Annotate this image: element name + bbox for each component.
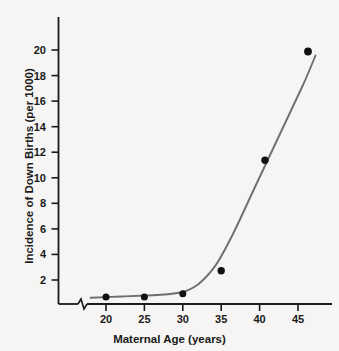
x-axis-break-icon [78,299,87,309]
x-tick-label-45: 45 [292,313,304,325]
data-point [218,267,225,274]
x-axis-ticks [106,304,298,311]
x-tick-label-40: 40 [253,313,265,325]
data-point [141,294,148,301]
y-axis-ticks [52,50,59,280]
data-point [103,294,110,301]
chart-figure: 20 18 16 14 12 10 8 6 4 2 20 25 30 35 40… [0,0,339,351]
x-axis-title: Maternal Age (years) [0,333,339,345]
data-point [304,48,312,56]
x-tick-label-35: 35 [215,313,227,325]
data-point [261,157,268,164]
x-tick-label-25: 25 [138,313,150,325]
data-point-markers [103,48,312,301]
chart-plot-area [0,0,339,351]
data-point [179,290,186,297]
y-axis-title: Incidence of Down Births (per 1000) [23,51,35,281]
x-tick-label-20: 20 [100,313,112,325]
x-tick-label-30: 30 [177,313,189,325]
trend-curve [91,56,316,298]
